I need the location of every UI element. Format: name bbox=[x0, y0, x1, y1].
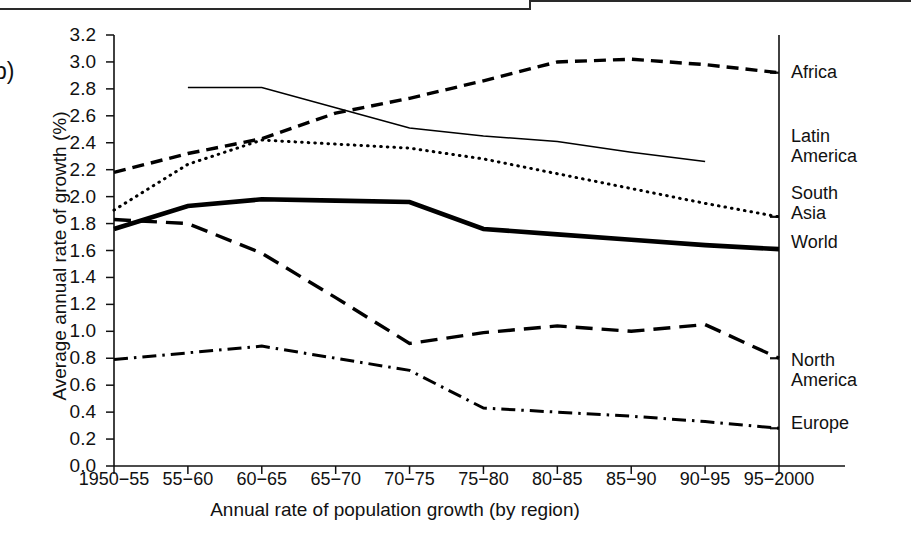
population-growth-line-chart: Average annual rate of growth (%) Annual… bbox=[0, 0, 911, 537]
series-line-world bbox=[114, 199, 779, 249]
series-line-europe bbox=[114, 346, 779, 428]
tick-marks bbox=[106, 35, 779, 474]
series-line-north-america bbox=[114, 220, 779, 359]
series-line-latin-america bbox=[188, 88, 705, 162]
series-line-africa bbox=[114, 59, 779, 172]
axis-lines bbox=[114, 35, 845, 466]
plot-area-svg bbox=[0, 0, 911, 537]
series-paths bbox=[114, 59, 779, 428]
